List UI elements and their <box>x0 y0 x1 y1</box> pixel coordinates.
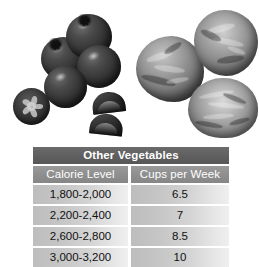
vegetable-photo <box>0 0 258 146</box>
table-title: Other Vegetables <box>33 147 229 164</box>
wedge-flesh <box>94 122 117 135</box>
cell-cups-per-week: 8.5 <box>131 227 229 246</box>
wedge-flesh <box>97 99 121 113</box>
tomato-stem-icon <box>76 14 93 27</box>
tomato-core <box>27 102 36 111</box>
tomato-slice-icon <box>13 88 50 125</box>
tomato-icon <box>44 66 87 108</box>
column-header-cups-per-week: Cups per Week <box>131 166 229 183</box>
cell-calorie-level: 1,800-2,000 <box>33 185 128 204</box>
table-row: 2,600-2,800 8.5 <box>33 227 229 246</box>
tomato-wedge-icon <box>91 90 126 115</box>
cell-calorie-level: 3,000-3,200 <box>33 248 128 267</box>
tomato-wedge-icon <box>89 112 124 136</box>
table-row: 3,000-3,200 10 <box>33 248 229 267</box>
cabbage-head-icon <box>188 78 258 138</box>
cell-calorie-level: 2,200-2,400 <box>33 206 128 225</box>
cabbage-leaf-texture <box>194 10 258 76</box>
cell-cups-per-week: 7 <box>131 206 229 225</box>
table-row: 1,800-2,000 6.5 <box>33 185 229 204</box>
cell-cups-per-week: 10 <box>131 248 229 267</box>
cell-calorie-level: 2,600-2,800 <box>33 227 128 246</box>
column-header-calorie-level: Calorie Level <box>33 166 128 183</box>
cabbage-head-icon <box>194 10 258 76</box>
tomato-stem-icon <box>47 38 64 51</box>
table-header-row: Calorie Level Cups per Week <box>33 166 229 183</box>
cabbage-leaf-texture <box>188 78 258 138</box>
cell-cups-per-week: 6.5 <box>131 185 229 204</box>
other-vegetables-table: Other Vegetables Calorie Level Cups per … <box>33 147 229 267</box>
table-row: 2,200-2,400 7 <box>33 206 229 225</box>
